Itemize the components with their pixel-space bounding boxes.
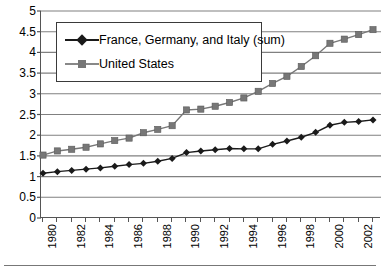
legend-item-france-germany-italy: France, Germany, and Italy (sum): [65, 32, 285, 48]
x-axis-tick-mark: [286, 218, 287, 222]
legend-key-square-icon: [65, 57, 99, 71]
x-axis-tick-mark: [142, 218, 143, 222]
y-axis-tick-labels: 00.511.522.533.544.55: [0, 0, 36, 269]
x-axis-tick-mark: [214, 218, 215, 222]
y-axis-tick-label: 5: [2, 5, 36, 17]
x-axis-tick-label: 1980: [47, 224, 58, 248]
x-axis-tick-mark: [243, 218, 244, 222]
x-axis-tick-mark: [372, 218, 373, 222]
x-axis-tick-mark: [257, 218, 258, 222]
y-axis-tick-label: 1: [2, 171, 36, 183]
y-axis-tick-label: 2: [2, 129, 36, 141]
y-axis-tick-label: 3: [2, 88, 36, 100]
x-axis-tick-mark: [85, 218, 86, 222]
y-axis-tick-label: 0: [2, 212, 36, 224]
x-axis-tick-mark: [128, 218, 129, 222]
x-axis-tick-mark: [42, 218, 43, 222]
legend-key-diamond-icon: [65, 33, 99, 47]
y-axis-tick-label: 4: [2, 46, 36, 58]
x-axis-tick-label: 1990: [190, 224, 201, 248]
x-axis-tick-labels: 1980198219841986198819901992199419961998…: [40, 218, 380, 266]
chart-legend: France, Germany, and Italy (sum) United …: [56, 22, 262, 82]
x-axis-tick-label: 1992: [219, 224, 230, 248]
x-axis-tick-label: 2002: [363, 224, 374, 248]
footer-rule: [4, 265, 376, 266]
legend-item-united-states: United States: [65, 56, 174, 72]
x-axis-tick-label: 1998: [305, 224, 316, 248]
x-axis-tick-label: 1988: [162, 224, 173, 248]
y-axis-tick-label: 0.5: [2, 191, 36, 203]
x-axis-tick-mark: [272, 218, 273, 222]
x-axis-tick-label: 1986: [133, 224, 144, 248]
x-axis-tick-label: 2000: [334, 224, 345, 248]
x-axis-tick-mark: [114, 218, 115, 222]
x-axis-tick-mark: [56, 218, 57, 222]
x-axis-tick-label: 1996: [277, 224, 288, 248]
x-axis-tick-label: 1984: [104, 224, 115, 248]
legend-label-united-states: United States: [99, 58, 174, 71]
x-axis-tick-label: 1994: [248, 224, 259, 248]
y-axis-tick-label: 4.5: [2, 26, 36, 38]
x-axis-tick-label: 1982: [76, 224, 87, 248]
legend-label-france-germany-italy: France, Germany, and Italy (sum): [99, 34, 285, 47]
x-axis-tick-mark: [358, 218, 359, 222]
x-axis-tick-mark: [300, 218, 301, 222]
x-axis-tick-mark: [343, 218, 344, 222]
x-axis-tick-mark: [185, 218, 186, 222]
line-chart: 00.511.522.533.544.55 198019821984198619…: [0, 0, 392, 269]
x-axis-tick-mark: [99, 218, 100, 222]
x-axis-tick-mark: [229, 218, 230, 222]
y-axis-tick-label: 1.5: [2, 150, 36, 162]
y-axis-tick-label: 3.5: [2, 67, 36, 79]
x-axis-tick-mark: [200, 218, 201, 222]
x-axis-tick-mark: [315, 218, 316, 222]
x-axis-tick-mark: [171, 218, 172, 222]
y-axis-tick-label: 2.5: [2, 109, 36, 121]
x-axis-tick-mark: [329, 218, 330, 222]
x-axis-tick-mark: [71, 218, 72, 222]
x-axis-tick-mark: [157, 218, 158, 222]
